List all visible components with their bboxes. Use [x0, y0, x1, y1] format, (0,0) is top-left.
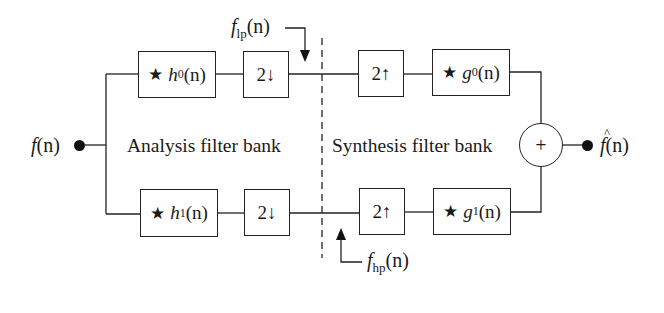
arrowhead-down-icon: [300, 50, 310, 62]
highpass-pointer: [341, 238, 362, 262]
input-label: f(n): [31, 135, 60, 155]
convolution-star-icon: ★: [442, 62, 457, 83]
analysis-filter-h1: ★ h1(n): [140, 189, 218, 237]
synthesis-section-label: Synthesis filter bank: [332, 136, 492, 156]
lowpass-signal-label: flp(n): [231, 16, 270, 40]
downsampler-top: 2↓: [243, 51, 289, 98]
analysis-section-label: Analysis filter bank: [127, 136, 281, 156]
convolution-star-icon: ★: [148, 64, 163, 85]
output-label: f(n): [600, 135, 629, 155]
convolution-star-icon: ★: [150, 203, 165, 224]
highpass-signal-label: fhp(n): [367, 250, 409, 274]
output-node: [582, 140, 593, 151]
wiring: [0, 0, 664, 313]
plus-icon: +: [535, 134, 546, 157]
input-node: [74, 140, 85, 151]
upsampler-bottom: 2↑: [359, 188, 405, 235]
synthesis-filter-g0: ★ g0(n): [432, 49, 510, 96]
convolution-star-icon: ★: [443, 201, 458, 222]
summing-junction: +: [519, 123, 563, 167]
downsampler-bottom: 2↓: [244, 189, 290, 236]
analysis-filter-h0: ★ h0(n): [138, 51, 216, 98]
synthesis-filter-g1: ★ g1(n): [433, 188, 511, 235]
arrowhead-up-icon: [336, 228, 346, 240]
lowpass-pointer: [285, 28, 305, 52]
upsampler-top: 2↑: [358, 50, 404, 97]
